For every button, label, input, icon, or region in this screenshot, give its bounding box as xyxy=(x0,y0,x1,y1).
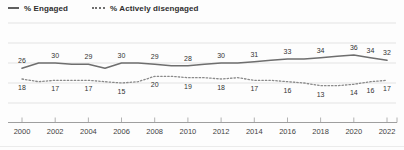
disengaged-point-label: 17 xyxy=(51,85,59,92)
disengaged-point-label: 16 xyxy=(367,87,375,94)
trend-plot: 2000200220042006200820102012201420162018… xyxy=(0,0,404,150)
engaged-series-line xyxy=(22,55,387,68)
x-tick-label: 2002 xyxy=(47,127,64,136)
disengaged-point-label: 16 xyxy=(284,87,292,94)
engaged-point-label: 34 xyxy=(317,47,325,54)
engaged-point-label: 34 xyxy=(367,47,375,54)
engaged-point-label: 29 xyxy=(151,53,159,60)
engaged-point-label: 30 xyxy=(51,52,59,59)
engaged-point-label: 32 xyxy=(383,49,391,56)
engaged-point-label: 28 xyxy=(184,55,192,62)
disengaged-point-label: 20 xyxy=(151,81,159,88)
disengaged-series-line xyxy=(22,76,387,85)
x-tick-label: 2010 xyxy=(180,127,197,136)
disengaged-point-label: 18 xyxy=(18,84,26,91)
engaged-point-label: 31 xyxy=(250,51,258,58)
disengaged-point-label: 19 xyxy=(184,83,192,90)
engaged-point-label: 30 xyxy=(217,52,225,59)
x-tick-label: 2018 xyxy=(312,127,329,136)
engaged-point-label: 26 xyxy=(18,57,26,64)
engagement-trend-chart: % Engaged % Actively disengaged 20002002… xyxy=(0,0,404,150)
disengaged-point-label: 14 xyxy=(350,89,358,96)
x-tick-label: 2006 xyxy=(113,127,130,136)
disengaged-point-label: 17 xyxy=(383,85,391,92)
x-tick-label: 2000 xyxy=(14,127,31,136)
x-tick-label: 2016 xyxy=(279,127,296,136)
engaged-point-label: 29 xyxy=(85,53,93,60)
engaged-point-label: 33 xyxy=(284,48,292,55)
x-tick-label: 2012 xyxy=(213,127,230,136)
engaged-point-label: 36 xyxy=(350,44,358,51)
disengaged-point-label: 17 xyxy=(85,85,93,92)
disengaged-point-label: 18 xyxy=(217,84,225,91)
x-tick-label: 2004 xyxy=(80,127,97,136)
engaged-point-label: 30 xyxy=(118,52,126,59)
x-tick-label: 2020 xyxy=(345,127,362,136)
disengaged-point-label: 17 xyxy=(250,85,258,92)
x-tick-label: 2014 xyxy=(246,127,263,136)
disengaged-point-label: 13 xyxy=(317,91,325,98)
disengaged-point-label: 15 xyxy=(118,88,126,95)
x-tick-label: 2022 xyxy=(379,127,396,136)
x-tick-label: 2008 xyxy=(146,127,163,136)
